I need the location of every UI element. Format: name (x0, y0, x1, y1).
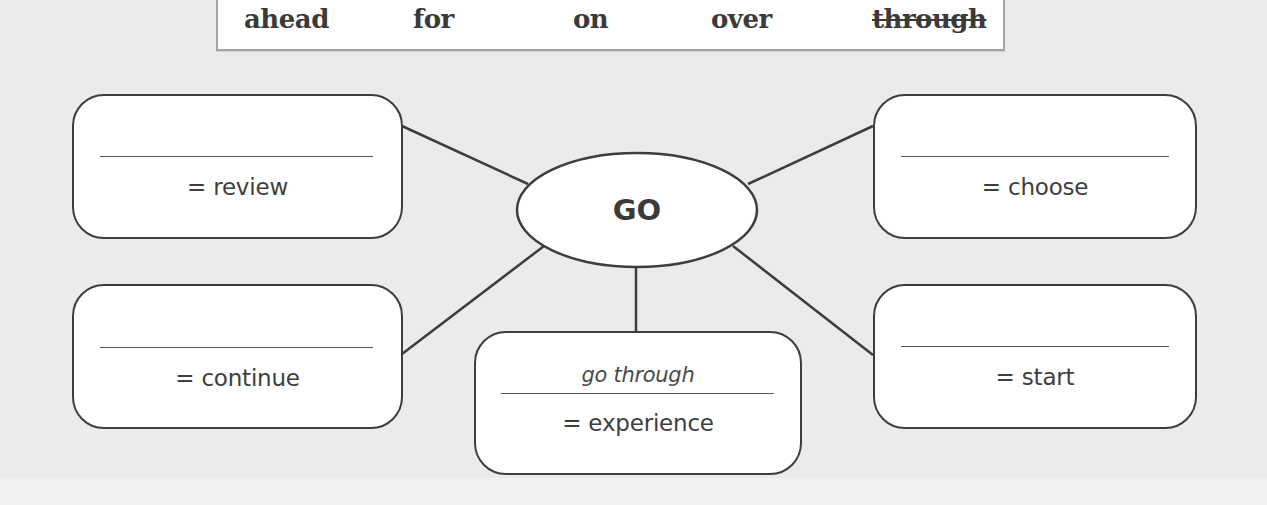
answer-blank-top-right[interactable] (901, 156, 1169, 157)
box-bottom-center: go through = experience (474, 331, 802, 475)
meaning-review: = review (74, 174, 401, 200)
connector-top-right (748, 126, 873, 184)
answer-blank-bottom-right[interactable] (901, 346, 1169, 347)
meaning-choose: = choose (875, 174, 1195, 200)
box-top-left: = review (72, 94, 403, 239)
center-label-go: GO (517, 153, 757, 267)
answer-blank-bottom-left[interactable] (100, 347, 373, 348)
box-top-right: = choose (873, 94, 1197, 239)
answer-go-through: go through (476, 363, 800, 387)
answer-line-bottom-center (501, 393, 774, 394)
meaning-continue: = continue (74, 365, 401, 391)
meaning-start: = start (875, 364, 1195, 390)
box-bottom-left: = continue (72, 284, 403, 429)
connector-top-left (402, 126, 528, 184)
meaning-experience: = experience (476, 410, 800, 436)
box-bottom-right: = start (873, 284, 1197, 429)
answer-blank-top-left[interactable] (100, 156, 373, 157)
